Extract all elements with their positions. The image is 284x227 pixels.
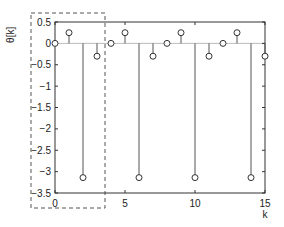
stem-marker [94,53,100,59]
stem-marker [234,30,240,36]
y-tick-label: −1.5 [31,102,51,113]
x-tick-label: 10 [189,198,201,209]
stem-marker [178,30,184,36]
x-tick-label: 15 [259,198,271,209]
y-tick-label: −3 [40,166,52,177]
stem-marker [150,53,156,59]
stem-marker [248,175,254,181]
axes-box [55,22,265,193]
x-tick-label: 5 [122,198,128,209]
stem-marker [220,40,226,46]
y-tick-label: −2 [40,123,52,134]
stem-marker [206,53,212,59]
stem-marker [52,40,58,46]
stem-marker [164,40,170,46]
y-tick-label: 0.5 [37,17,51,28]
y-tick-label: −2.5 [31,145,51,156]
stem-marker [108,40,114,46]
stem-marker [122,30,128,36]
y-tick-label: −1 [40,81,52,92]
x-axis-label: k [263,209,269,220]
stem-chart: 0.50−0.5−1−1.5−2−2.5−3−3.5051015kθ[k] [0,0,284,227]
y-axis-label: θ[k] [5,27,16,43]
stem-marker [262,53,268,59]
y-tick-label: −0.5 [31,59,51,70]
stem-marker [66,30,72,36]
stem-marker [80,175,86,181]
stem-marker [192,175,198,181]
x-tick-label: 0 [52,198,58,209]
y-tick-label: −3.5 [31,188,51,199]
stem-marker [136,175,142,181]
y-tick-label: 0 [45,38,51,49]
